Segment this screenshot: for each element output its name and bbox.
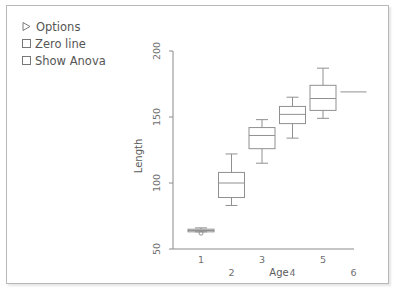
x-tick-label: 4	[289, 267, 295, 278]
x-tick-label: 1	[198, 254, 204, 265]
x-tick-label: 5	[320, 254, 326, 265]
y-tick-label: 100	[151, 174, 162, 192]
box-rect	[280, 106, 306, 123]
box-rect	[219, 172, 245, 197]
box-plot-chart: 50100150200Length123456Age	[7, 6, 390, 285]
x-axis-title: Age	[269, 267, 288, 278]
box-rect	[310, 85, 336, 110]
y-axis-title: Length	[133, 139, 144, 174]
y-tick-label: 50	[151, 243, 162, 255]
box-rect	[249, 128, 275, 149]
y-tick-label: 200	[151, 42, 162, 60]
x-tick-label: 6	[350, 267, 356, 278]
app-root: Options Zero line Show Anova 50100150200…	[0, 0, 399, 299]
chart-canvas: 50100150200Length123456Age	[7, 6, 390, 285]
plot-panel: Options Zero line Show Anova 50100150200…	[6, 5, 389, 284]
x-tick-label: 3	[259, 254, 265, 265]
y-tick-label: 150	[151, 108, 162, 126]
x-tick-label: 2	[228, 267, 234, 278]
